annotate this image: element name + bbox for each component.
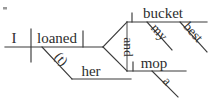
modifier-my-word: my bbox=[148, 21, 171, 44]
direct-object-2-word: mop bbox=[141, 55, 168, 71]
conjunction-word: and bbox=[121, 37, 136, 57]
diagram-canvas: I loaned (t) her and bucket my best bbox=[0, 0, 210, 102]
stray-mark bbox=[3, 7, 7, 10]
indirect-object-word: her bbox=[81, 63, 100, 79]
direct-object-1-word-text: bucket bbox=[143, 5, 184, 21]
sentence-diagram: I loaned (t) her and bucket my best bbox=[0, 0, 210, 102]
indirect-object-marker: (t) bbox=[51, 49, 71, 69]
modifier-best-word: best bbox=[180, 19, 206, 45]
verb-word: loaned bbox=[37, 30, 77, 46]
subject-word: I bbox=[12, 30, 17, 46]
